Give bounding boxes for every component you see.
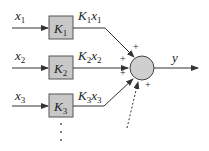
dashed-extra-input-arrow [127,82,138,128]
plus-sign-4: + [145,79,151,90]
plus-sign-2: + [120,53,126,64]
summing-junction [130,56,154,80]
ellipsis-more-inputs [60,123,62,141]
plus-sign-3: + [120,67,126,78]
input-label-x3: x3 [14,88,26,105]
input-branch-1: x1 K1 K1x1 [12,8,134,57]
weighted-sum-diagram: x1 K1 K1x1 x2 K2 K2x2 x3 K3 K3x3 + + + + [0,0,209,151]
plus-sign-1: + [133,41,139,52]
product-label-k2x2: K2x2 [77,48,101,65]
output-label-y: y [170,50,178,65]
product-label-k1x1: K1x1 [77,8,101,25]
product-label-k3x3: K3x3 [77,88,102,105]
input-label-x2: x2 [14,48,25,65]
input-label-x1: x1 [14,8,25,25]
input-branch-2: x2 K2 K2x2 [12,48,128,79]
input-branch-3: x3 K3 K3x3 [12,79,133,117]
